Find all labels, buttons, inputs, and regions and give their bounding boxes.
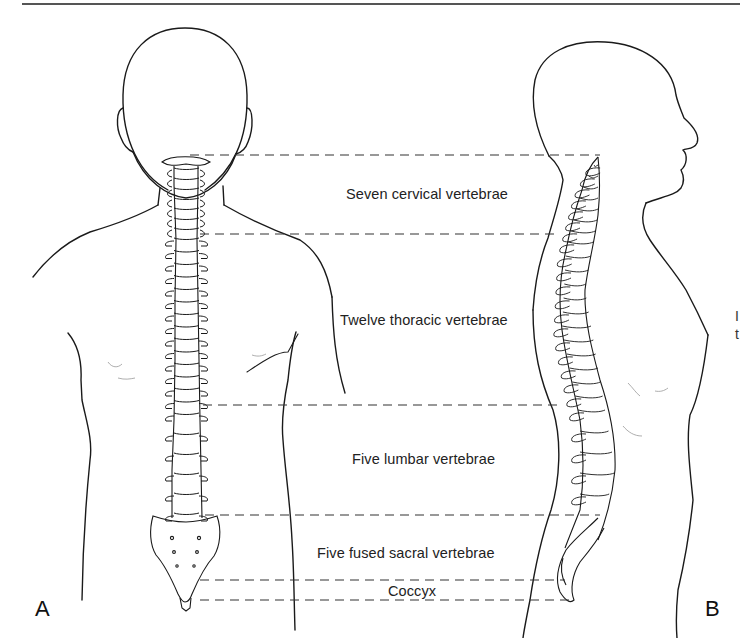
figure-b-body-outline (523, 42, 708, 638)
figure-b-shading (623, 383, 668, 436)
label-cervical: Seven cervical vertebrae (346, 186, 508, 202)
figure-a-body-outline (33, 28, 345, 630)
label-sacral: Five fused sacral vertebrae (317, 545, 495, 561)
panel-letter-a: A (35, 596, 50, 622)
region-guide-lines (190, 155, 600, 600)
label-lumbar: Five lumbar vertebrae (352, 451, 495, 467)
panel-letter-b: B (705, 596, 720, 622)
spine-diagram: Seven cervical vertebrae Twelve thoracic… (0, 0, 740, 638)
label-coccyx: Coccyx (386, 583, 438, 599)
figure-b-spine (560, 157, 615, 548)
cropped-text-fragment: I (735, 308, 739, 324)
figure-a-shading (108, 354, 266, 379)
figure-b-sacrum (558, 518, 604, 602)
figure-a-sacrum (151, 516, 220, 611)
cropped-text-fragment-2: t (735, 326, 739, 342)
label-thoracic: Twelve thoracic vertebrae (340, 312, 508, 328)
